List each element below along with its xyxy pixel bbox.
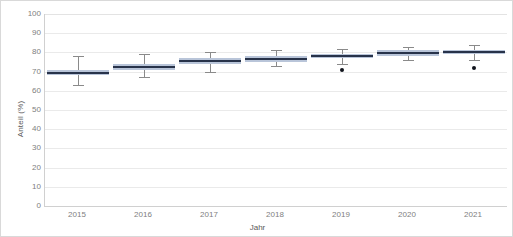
x-axis-tick-label: 2015 bbox=[57, 210, 97, 219]
whisker-cap-lower bbox=[271, 66, 282, 67]
boxplot-group[interactable] bbox=[47, 14, 109, 206]
y-axis-tick-label: 100 bbox=[19, 10, 41, 18]
whisker-cap-lower bbox=[139, 77, 150, 78]
x-axis-tick-label: 2018 bbox=[255, 210, 295, 219]
plot-area bbox=[44, 14, 507, 207]
median-line bbox=[311, 55, 373, 57]
whisker-cap-lower bbox=[205, 72, 216, 73]
y-axis-tick-label: 90 bbox=[19, 29, 41, 37]
whisker-cap-upper bbox=[271, 50, 282, 51]
y-axis-tick-label: 30 bbox=[19, 144, 41, 152]
whisker-cap-lower bbox=[73, 85, 84, 86]
x-axis-tick-label: 2020 bbox=[387, 210, 427, 219]
y-axis-tick-label: 10 bbox=[19, 183, 41, 191]
boxplot-group[interactable] bbox=[443, 14, 505, 206]
median-line bbox=[47, 72, 109, 74]
whisker-cap-upper bbox=[139, 54, 150, 55]
y-axis-tick-label: 50 bbox=[19, 106, 41, 114]
median-line bbox=[377, 52, 439, 54]
whisker-cap-lower bbox=[403, 60, 414, 61]
whisker-cap-upper bbox=[205, 52, 216, 53]
y-axis-tick-label: 0 bbox=[19, 202, 41, 210]
y-axis-tick-label: 40 bbox=[19, 125, 41, 133]
whisker-cap-upper bbox=[73, 56, 84, 57]
whisker-cap-lower bbox=[469, 60, 480, 61]
y-axis-tick-label: 20 bbox=[19, 164, 41, 172]
outlier-point[interactable] bbox=[472, 66, 476, 70]
whisker-cap-upper bbox=[403, 47, 414, 48]
whisker-cap-lower bbox=[337, 64, 348, 65]
y-axis-tick-label: 60 bbox=[19, 87, 41, 95]
boxplot-group[interactable] bbox=[377, 14, 439, 206]
y-axis-tick-labels: 1009080706050403020100 bbox=[17, 1, 41, 237]
x-axis-tick-label: 2016 bbox=[123, 210, 163, 219]
outlier-point[interactable] bbox=[340, 68, 344, 72]
boxplot-group[interactable] bbox=[179, 14, 241, 206]
median-line bbox=[179, 60, 241, 62]
whisker-cap-upper bbox=[469, 45, 480, 46]
x-axis-tick-label: 2019 bbox=[321, 210, 361, 219]
x-axis-tick-label: 2017 bbox=[189, 210, 229, 219]
boxplot-chart: Anteil (%) 1009080706050403020100 Jahr 2… bbox=[0, 0, 513, 237]
y-axis-tick-label: 80 bbox=[19, 48, 41, 56]
median-line bbox=[443, 51, 505, 53]
x-axis-tick-label: 2021 bbox=[453, 210, 493, 219]
boxplot-group[interactable] bbox=[311, 14, 373, 206]
median-line bbox=[245, 58, 307, 60]
boxplot-group[interactable] bbox=[113, 14, 175, 206]
boxplot-group[interactable] bbox=[245, 14, 307, 206]
y-axis-tick-label: 70 bbox=[19, 68, 41, 76]
median-line bbox=[113, 66, 175, 68]
whisker-cap-upper bbox=[337, 49, 348, 50]
x-axis-title: Jahr bbox=[1, 223, 513, 232]
